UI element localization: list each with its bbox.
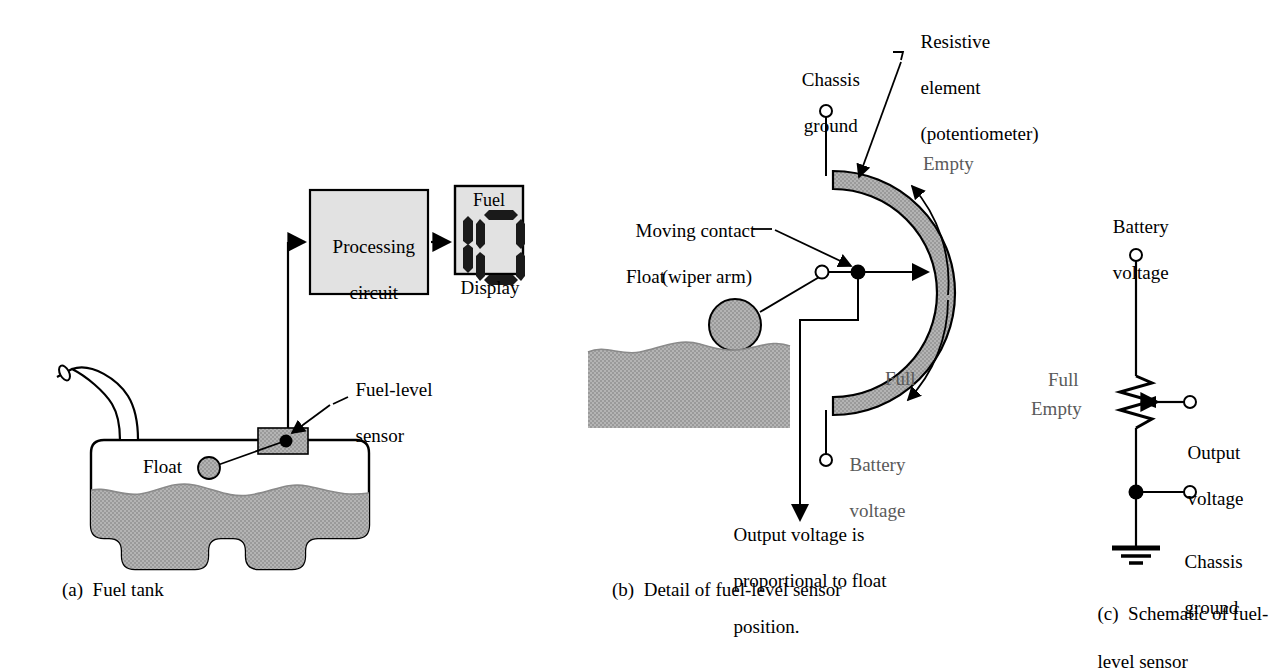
output-voltage-terminal-c (1184, 396, 1196, 408)
full-label-b: Full (885, 367, 916, 390)
wiper-assembly (760, 272, 928, 312)
resistive-element-label: Resistive element (potentiometer) (911, 7, 1039, 145)
sensor-leader-a (292, 397, 348, 433)
battery-voltage-label-c: Battery voltage (1076, 192, 1196, 284)
output-voltage-label-c: Output voltage (1178, 418, 1243, 510)
fuel-block-b (588, 342, 790, 428)
moving-contact-leader (752, 229, 851, 266)
chassis-ground-symbol-c (1112, 548, 1160, 563)
full-label-c: Full (1048, 368, 1079, 391)
wiper-contact-dot (851, 265, 866, 280)
caption-b: (b) Detail of fuel-level sensor (612, 578, 842, 602)
float-ball-b (709, 299, 761, 351)
battery-voltage-terminal-b (820, 454, 832, 466)
filler-pipe (57, 364, 138, 440)
chassis-ground-label-b: Chassis ground (766, 45, 886, 137)
sensor-pivot-dot-a (280, 435, 293, 448)
float-ball-a (198, 457, 220, 479)
caption-c: (c) Schematic of fuel- level sensor (1088, 578, 1268, 672)
output-note-b: Output voltage is proportional to float … (724, 500, 887, 638)
fuel-level-sensor-label: Fuel-level sensor (346, 355, 433, 447)
empty-label-b: Empty (923, 152, 974, 175)
empty-label-c: Empty (1031, 397, 1082, 420)
float-label-a: Float (143, 455, 182, 478)
display-title-label: Fuel (455, 189, 523, 212)
processing-circuit-label: Processing circuit (313, 212, 425, 304)
fuel-liquid (85, 484, 375, 580)
resistor-zigzag-c (1120, 376, 1152, 428)
float-label-b: Float (626, 265, 665, 288)
wiper-joint-terminal (816, 266, 829, 279)
caption-a: (a) Fuel tank (62, 578, 164, 602)
junction-dot-c (1129, 485, 1144, 500)
display-caption-label: Display (443, 276, 537, 299)
